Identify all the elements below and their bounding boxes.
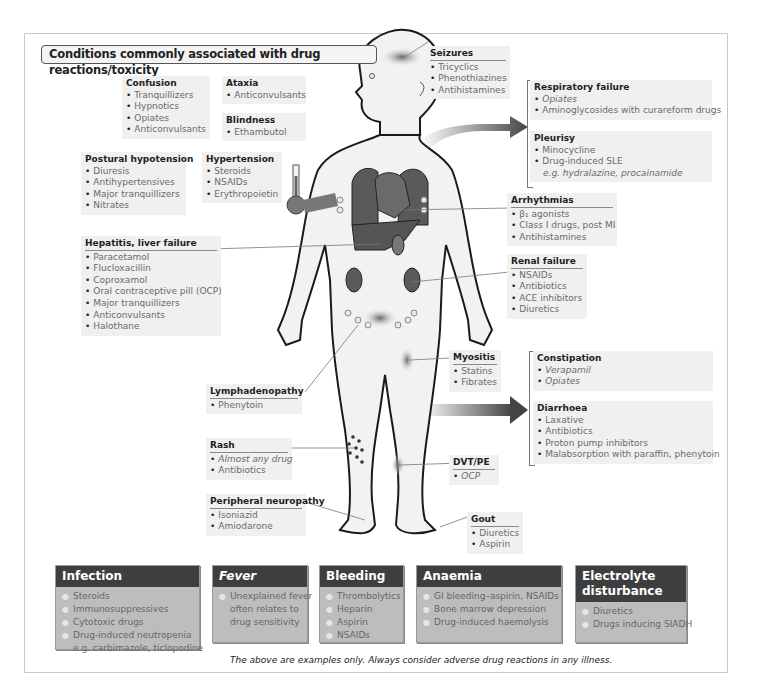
label-postural-hypotension: Postural hypotension Diuresis Antihypert…: [81, 152, 186, 215]
item: Major tranquillizers: [85, 189, 182, 201]
label-diarrhoea: Diarrhoea Laxative Antibiotics Proton pu…: [533, 401, 713, 464]
item: Paracetamol: [85, 252, 217, 264]
item: Ethambutol: [226, 127, 302, 139]
item: Drug-induced SLE: [534, 156, 708, 168]
item: Thrombolytics: [326, 590, 397, 603]
item: β₁ agonists: [511, 209, 613, 221]
item: Antihypertensives: [85, 177, 182, 189]
item: drug sensitivity: [219, 616, 301, 629]
heading: Constipation: [537, 353, 709, 365]
box-anaemia: Anaemia GI bleeding–aspirin, NSAIDs Bone…: [416, 565, 562, 643]
item: Phenytoin: [210, 400, 298, 412]
item: Heparin: [326, 603, 397, 616]
label-dvt-pe: DVT/PE OCP: [449, 455, 499, 485]
item: Erythropoietin: [206, 189, 278, 201]
label-respiratory-failure: Respiratory failure Opiates Aminoglycosi…: [530, 80, 712, 120]
item: Drug-induced neutropenia: [62, 629, 193, 642]
label-ataxia: Ataxia Anticonvulsants: [222, 76, 306, 104]
label-renal-failure: Renal failure NSAIDs Antibiotics ACE inh…: [507, 254, 587, 319]
diagram-title: Conditions commonly associated with drug…: [41, 45, 377, 64]
item: Immunosuppressives: [62, 603, 193, 616]
label-lymphadenopathy: Lymphadenopathy Phenytoin: [206, 384, 302, 414]
item: Unexplained fever: [219, 590, 301, 603]
item: Aspirin: [471, 539, 519, 551]
heading: Blindness: [226, 115, 302, 127]
item: Antihistamines: [511, 232, 613, 244]
item: Opiates: [534, 94, 708, 106]
item: Aspirin: [326, 616, 397, 629]
heading: DVT/PE: [453, 457, 495, 470]
item: Diuretics: [511, 304, 583, 316]
item: Antibiotics: [537, 426, 709, 438]
item: Almost any drug: [210, 454, 288, 466]
item: Flucloxacillin: [85, 263, 217, 275]
footnote: The above are examples only. Always cons…: [230, 655, 612, 665]
arrow-to-respiratory: [420, 116, 528, 150]
item: Verapamil: [537, 365, 709, 377]
brain-region: [380, 47, 424, 67]
heading: Hepatitis, liver failure: [85, 238, 217, 251]
item: Diuresis: [85, 166, 182, 178]
item: Cytotoxic drugs: [62, 616, 193, 629]
item: Oral contraceptive pill (OCP): [85, 286, 217, 298]
label-blindness: Blindness Ethambutol: [222, 113, 306, 141]
heading: Myositis: [453, 352, 497, 365]
heading: Hypertension: [206, 154, 278, 166]
kidney-right: [404, 268, 420, 292]
heading: Diarrhoea: [537, 403, 709, 415]
item: Statins: [453, 366, 497, 378]
label-rash: Rash Almost any drug Antibiotics: [206, 438, 292, 480]
box-heading: Infection: [56, 566, 199, 587]
box-bleeding: Bleeding Thrombolytics Heparin Aspirin N…: [319, 565, 404, 643]
box-heading: Anaemia: [417, 566, 561, 587]
heading: Seizures: [430, 48, 506, 61]
label-gout: Gout Diuretics Aspirin: [467, 512, 523, 554]
box-heading: Electrolyte disturbance: [576, 566, 686, 602]
item: Steroids: [206, 166, 278, 178]
item: Fibrates: [453, 377, 497, 389]
label-hypertension: Hypertension Steroids NSAIDs Erythropoie…: [202, 152, 282, 203]
label-pleurisy: Pleurisy Minocycline Drug-induced SLE e.…: [530, 131, 712, 182]
item: Anticonvulsants: [226, 90, 302, 102]
item: e.g. carbimazole, ticlopodine: [62, 642, 193, 655]
heading: Renal failure: [511, 256, 583, 269]
label-peripheral-neuropathy: Peripheral neuropathy Isoniazid Amiodaro…: [206, 494, 306, 536]
item: Class I drugs, post MI: [511, 220, 613, 232]
item: Opiates: [126, 113, 206, 125]
item: Antihistamines: [430, 85, 506, 97]
heading: Gout: [471, 514, 519, 527]
item: Minocycline: [534, 145, 708, 157]
item: Nitrates: [85, 200, 182, 212]
item: Isoniazid: [210, 510, 302, 522]
heading: Pleurisy: [534, 133, 708, 145]
item: Antibiotics: [511, 281, 583, 293]
item: Coproxamol: [85, 275, 217, 287]
heading: Confusion: [126, 78, 206, 90]
item: Amiodarone: [210, 521, 302, 533]
item: Diuretics: [582, 605, 680, 618]
item: Tranquillizers: [126, 90, 206, 102]
heading-line-2: disturbance: [582, 584, 680, 599]
label-arrhythmias: Arrhythmias β₁ agonists Class I drugs, p…: [507, 193, 617, 246]
item: Halothane: [85, 321, 217, 333]
item: OCP: [453, 471, 495, 483]
item: Laxative: [537, 415, 709, 427]
item: e.g. hydralazine, procainamide: [534, 168, 708, 180]
item: Drug-induced haemolysis: [423, 616, 555, 629]
heading: Ataxia: [226, 78, 302, 90]
heading: Peripheral neuropathy: [210, 496, 302, 509]
item: Diuretics: [471, 528, 519, 540]
item: Proton pump inhibitors: [537, 438, 709, 450]
box-infection: Infection Steroids Immunosuppressives Cy…: [55, 565, 200, 650]
label-seizures: Seizures Tricyclics Phenothiazines Antih…: [426, 46, 510, 99]
label-confusion: Confusion Tranquillizers Hypnotics Opiat…: [122, 76, 210, 139]
item: Hypnotics: [126, 101, 206, 113]
label-constipation: Constipation Verapamil Opiates: [533, 351, 713, 391]
item: Tricyclics: [430, 62, 506, 74]
item: Drugs inducing SIADH: [582, 618, 680, 631]
box-heading: Fever: [213, 566, 307, 587]
item: Anticonvulsants: [85, 310, 217, 322]
item: GI bleeding–aspirin, NSAIDs: [423, 590, 555, 603]
heading: Respiratory failure: [534, 82, 708, 94]
item: Opiates: [537, 376, 709, 388]
